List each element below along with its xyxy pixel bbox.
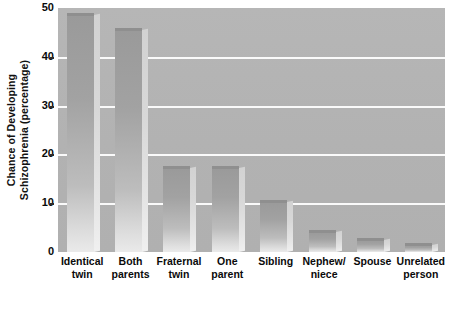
bar-side-face [142, 29, 148, 252]
bar-front-face [405, 245, 432, 252]
bar-top-face [357, 238, 384, 241]
bar-top-face [163, 166, 190, 169]
bar-top-face [115, 28, 142, 31]
bar-front-face [357, 240, 384, 252]
x-tick-label-line1: Nephew/ [302, 255, 345, 267]
bar-side-face [239, 166, 245, 252]
x-tick-label-line1: Unrelated [397, 255, 445, 267]
bar-side-face [336, 231, 342, 252]
y-tick-mark [50, 203, 54, 205]
bar [115, 30, 142, 252]
bar-side-face [94, 14, 100, 252]
x-tick-label-line1: Fraternal [156, 255, 201, 267]
plot-area [58, 8, 445, 252]
y-tick-mark [50, 106, 54, 108]
y-tick-label: 0 [32, 246, 54, 257]
bar-side-face [190, 166, 196, 252]
x-axis-labels: IdenticaltwinBothparentsFraternaltwinOne… [58, 255, 445, 299]
x-tick-label-line1: Identical [61, 255, 104, 267]
bar [405, 245, 432, 252]
x-tick-label-line2: parent [197, 268, 257, 281]
x-tick-label: Unrelatedperson [391, 255, 451, 281]
bar-front-face [163, 168, 190, 252]
bar-side-face [287, 200, 293, 252]
y-tick-mark [50, 154, 54, 156]
bar [163, 168, 190, 252]
y-axis-title-line1: Chance of Developing [5, 74, 17, 186]
bar-front-face [309, 232, 336, 252]
bar [309, 232, 336, 252]
y-tick-mark [50, 57, 54, 59]
bar-side-face [432, 243, 438, 252]
bar-top-face [212, 166, 239, 169]
bar-top-face [309, 230, 336, 233]
bar-top-face [67, 13, 94, 16]
x-tick-label-line1: Spouse [353, 255, 391, 267]
x-tick-label-line1: Both [119, 255, 143, 267]
x-tick-label-line2: person [391, 268, 451, 281]
x-tick-label-line2: niece [294, 268, 354, 281]
bar [357, 240, 384, 252]
bar [67, 15, 94, 252]
y-axis-ticks: 01020304050 [28, 0, 54, 309]
bar-front-face [67, 15, 94, 252]
bar-chart-figure: Chance of Developing Schizophrenia (perc… [0, 0, 458, 309]
bar [212, 168, 239, 252]
y-tick-label: 50 [32, 2, 54, 13]
bar-front-face [115, 30, 142, 252]
bar-front-face [260, 202, 287, 252]
bar-side-face [384, 239, 390, 252]
x-tick-label-line1: Sibling [258, 255, 293, 267]
x-tick-label-line1: One [217, 255, 237, 267]
bar-front-face [212, 168, 239, 252]
bar [260, 202, 287, 252]
bar-top-face [405, 243, 432, 246]
bar-top-face [260, 200, 287, 203]
